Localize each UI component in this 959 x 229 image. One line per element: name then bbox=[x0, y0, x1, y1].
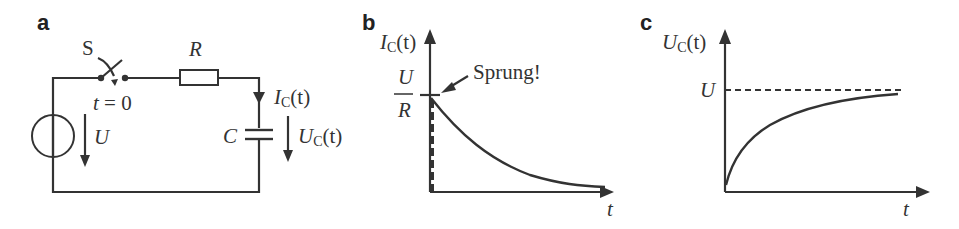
y-tick-denominator: R bbox=[397, 98, 411, 122]
x-axis-label-c: t bbox=[903, 197, 910, 221]
current-arrow-icon bbox=[253, 92, 265, 104]
y-tick-numerator: U bbox=[398, 65, 415, 89]
figure: a S t = 0 R IC(t) C bbox=[0, 0, 959, 229]
panel-label-c: c bbox=[640, 10, 652, 35]
switch-icon bbox=[98, 58, 128, 86]
capacitor-label: C bbox=[223, 124, 238, 148]
panel-label-b: b bbox=[362, 10, 375, 35]
resistor-label: R bbox=[188, 37, 202, 61]
current-decay-curve bbox=[431, 98, 605, 187]
capacitor-icon bbox=[244, 128, 274, 140]
panel-b-current-graph: b IC(t) t U R Sprung! bbox=[362, 10, 614, 221]
switch-label: S bbox=[82, 36, 94, 60]
jump-annotation: Sprung! bbox=[473, 60, 541, 84]
resistor-icon bbox=[180, 70, 218, 85]
x-axis-label-b: t bbox=[607, 197, 614, 221]
panel-a-circuit: a S t = 0 R IC(t) C bbox=[32, 10, 342, 192]
current-label: IC(t) bbox=[273, 85, 310, 110]
y-axis-label-c: UC(t) bbox=[662, 30, 706, 55]
y-axis-label-b: IC(t) bbox=[379, 30, 416, 55]
panel-label-a: a bbox=[37, 10, 50, 35]
cap-voltage-label: UC(t) bbox=[298, 124, 342, 149]
source-voltage-label: U bbox=[94, 125, 111, 149]
panel-c-voltage-graph: c UC(t) t U bbox=[640, 10, 930, 221]
y-tick-c: U bbox=[700, 78, 717, 102]
voltage-rise-curve bbox=[726, 94, 898, 185]
switch-time-label: t = 0 bbox=[93, 91, 132, 115]
